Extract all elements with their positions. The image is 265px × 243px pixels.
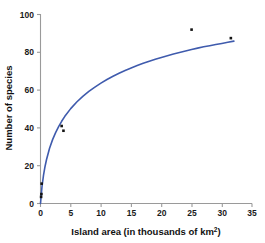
data-point (60, 125, 63, 128)
y-tick-label-0: 0 (29, 199, 34, 209)
data-point (230, 37, 233, 40)
data-point (40, 182, 43, 185)
x-tick-label-10: 10 (96, 208, 106, 218)
x-axis-title-close: ) (217, 226, 220, 237)
y-tick-label-40: 40 (25, 123, 35, 133)
x-tick-label-35: 35 (247, 208, 257, 218)
data-point (62, 129, 65, 132)
species-area-chart: 0 20 40 60 80 100 0 5 10 15 20 25 30 (0, 0, 265, 243)
y-tick-label-80: 80 (25, 47, 35, 57)
fitted-curve-group (41, 41, 234, 203)
x-tick-label-0: 0 (38, 208, 43, 218)
data-point (40, 196, 43, 199)
axes-group (40, 14, 252, 204)
x-tick-label-30: 30 (218, 208, 228, 218)
y-tick-label-20: 20 (25, 161, 35, 171)
data-point (40, 193, 43, 196)
y-tick-labels: 0 20 40 60 80 100 (20, 10, 34, 209)
data-point (190, 28, 193, 31)
x-tick-labels: 0 5 10 15 20 25 30 35 (38, 208, 257, 218)
x-tick-label-20: 20 (157, 208, 167, 218)
x-tick-label-5: 5 (68, 208, 73, 218)
y-tick-label-100: 100 (20, 10, 34, 20)
y-axis-title: Number of species (3, 66, 14, 151)
fitted-species-area-curve (41, 41, 234, 203)
x-tick-label-25: 25 (187, 208, 197, 218)
x-axis-title-group: Island area (in thousands of km2) (71, 226, 220, 238)
x-axis-title: Island area (in thousands of km2) (71, 226, 220, 238)
data-points-group (40, 28, 232, 198)
y-axis-title-group: Number of species (3, 66, 14, 151)
chart-canvas: 0 20 40 60 80 100 0 5 10 15 20 25 30 (0, 0, 265, 243)
x-axis-title-base: Island area (in thousands of km (71, 226, 214, 237)
x-tick-label-15: 15 (127, 208, 137, 218)
y-tick-label-60: 60 (25, 85, 35, 95)
